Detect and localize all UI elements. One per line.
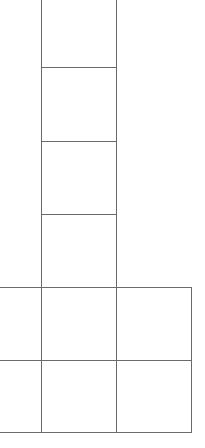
grid-cell-row1-left xyxy=(0,287,42,361)
grid-cell-row2-right xyxy=(116,360,192,433)
grid-cell-col-3 xyxy=(41,141,117,215)
grid-cell-row2-mid xyxy=(41,360,117,433)
grid-cell-row1-mid xyxy=(41,287,117,361)
grid-cell-row1-right xyxy=(116,287,192,361)
grid-cell-col-4 xyxy=(41,214,117,288)
grid-cell-col-1 xyxy=(41,0,117,68)
grid-cell-col-2 xyxy=(41,67,117,142)
grid-cell-row2-left xyxy=(0,360,42,433)
